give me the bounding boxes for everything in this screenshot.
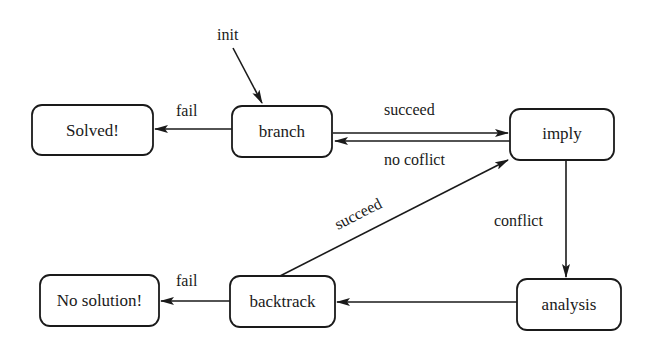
node-label-solved: Solved! xyxy=(66,121,119,140)
node-imply: imply xyxy=(510,109,614,160)
edge-backtrack-to-no-solution: fail xyxy=(161,272,230,301)
init-arrow xyxy=(233,48,262,103)
edge-imply-to-branch: no coflict xyxy=(335,141,510,168)
node-analysis: analysis xyxy=(517,279,621,330)
edge-init: init xyxy=(217,26,262,103)
node-branch: branch xyxy=(232,106,332,157)
succeed-arrow-diagonal xyxy=(280,160,508,276)
node-label-analysis: analysis xyxy=(542,295,597,314)
node-label-branch: branch xyxy=(259,122,306,141)
edge-label-init: init xyxy=(217,26,239,43)
state-diagram: init fail succeed no coflict conflict su… xyxy=(0,0,654,349)
edge-backtrack-to-imply: succeed xyxy=(280,160,508,276)
edge-branch-to-imply: succeed xyxy=(333,101,508,133)
node-label-backtrack: backtrack xyxy=(249,292,316,311)
edge-label-fail-top: fail xyxy=(176,102,198,119)
edge-label-conflict: conflict xyxy=(494,212,543,229)
edge-label-succeed-top: succeed xyxy=(384,101,435,118)
edge-branch-to-solved: fail xyxy=(155,102,232,129)
edge-label-no-conflict: no coflict xyxy=(384,151,445,168)
edge-imply-to-analysis: conflict xyxy=(494,160,566,277)
node-solved: Solved! xyxy=(32,105,153,155)
node-label-imply: imply xyxy=(542,124,582,143)
edge-label-fail-bottom: fail xyxy=(176,272,198,289)
node-label-no-solution: No solution! xyxy=(57,291,142,310)
node-no-solution: No solution! xyxy=(40,275,159,326)
node-backtrack: backtrack xyxy=(230,276,335,327)
